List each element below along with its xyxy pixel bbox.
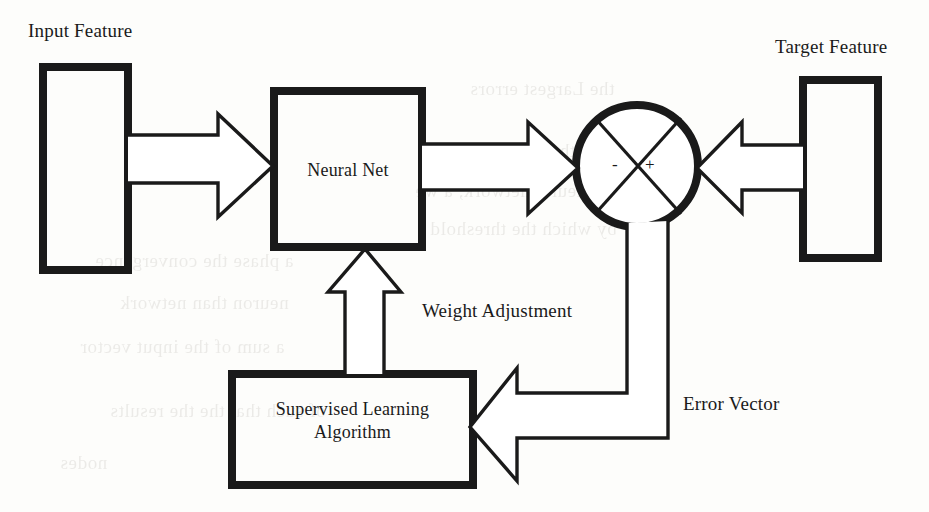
target-feature-box	[803, 80, 878, 258]
arrow-input-to-neural-net	[128, 114, 273, 217]
arrow-error-vector-to-algorithm	[470, 221, 668, 481]
summing-junction-minus-sign: -	[612, 155, 618, 175]
neural-net-label: Neural Net	[274, 159, 422, 182]
arrow-target-to-summing-junction	[697, 122, 803, 213]
target-feature-caption: Target Feature	[775, 36, 887, 58]
arrow-weight-adjustment-to-neural-net	[328, 249, 401, 374]
error-vector-label: Error Vector	[683, 393, 779, 415]
figure-canvas: the Largest errors in the output of the …	[0, 0, 929, 512]
input-feature-caption: Input Feature	[28, 20, 132, 42]
supervised-learning-algorithm-label-line1: Supervised Learning	[232, 398, 473, 421]
weight-adjustment-label: Weight Adjustment	[422, 300, 572, 322]
supervised-learning-algorithm-label-line2: Algorithm	[232, 421, 473, 444]
input-feature-box	[43, 67, 128, 270]
arrow-neural-net-to-summing-junction	[422, 122, 578, 214]
summing-junction-plus-sign: +	[645, 155, 655, 175]
